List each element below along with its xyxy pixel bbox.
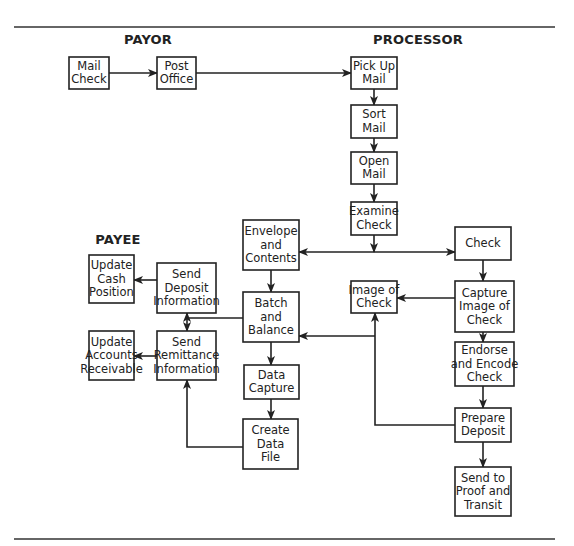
node-label: Send xyxy=(172,335,201,349)
node-batch-and-balance: BatchandBalance xyxy=(243,292,299,342)
nodes-layer: MailCheckPostOfficePick UpMailSortMailOp… xyxy=(69,57,518,516)
node-label: Mail xyxy=(362,121,385,135)
node-label: Update xyxy=(91,258,133,272)
arrow-prepare-deposit-to-image-of-check xyxy=(375,313,455,425)
node-label: Check xyxy=(467,370,503,384)
node-pick-up-mail: Pick UpMail xyxy=(351,57,397,89)
flowchart-canvas: MailCheckPostOfficePick UpMailSortMailOp… xyxy=(0,0,574,546)
section-title-payee: PAYEE xyxy=(95,232,140,247)
node-label: Capture xyxy=(462,286,508,300)
node-label: Mail xyxy=(362,72,385,86)
node-label: Send to xyxy=(461,471,505,485)
node-label: Capture xyxy=(249,381,295,395)
node-label: and Encode xyxy=(451,357,519,371)
node-label: Endorse xyxy=(461,343,508,357)
node-label: Prepare xyxy=(461,411,505,425)
section-titles: PAYORPROCESSORPAYEE xyxy=(95,32,463,247)
node-mail-check: MailCheck xyxy=(69,57,109,89)
node-envelope-and-contents: EnvelopeandContents xyxy=(243,220,299,270)
node-label: Office xyxy=(160,72,194,86)
node-label: Data xyxy=(257,437,284,451)
node-label: Remittance xyxy=(154,348,220,362)
node-post-office: PostOffice xyxy=(157,57,196,89)
node-label: Post xyxy=(164,59,189,73)
node-label: Proof and xyxy=(456,484,511,498)
node-label: Check xyxy=(356,218,392,232)
node-update-cash-position: UpdateCashPosition xyxy=(89,255,134,303)
node-check: Check xyxy=(455,227,511,260)
node-label: and xyxy=(260,238,282,252)
arrow-create-data-file-to-send-remittance-information xyxy=(187,380,243,447)
node-label: Contents xyxy=(245,251,297,265)
node-label: Position xyxy=(89,285,134,299)
node-label: Pick Up xyxy=(353,59,395,73)
node-send-deposit-information: SendDepositInformation xyxy=(153,263,220,313)
node-image-of-check: Image ofCheck xyxy=(349,281,401,313)
node-label: Deposit xyxy=(461,424,505,438)
node-label: Envelope xyxy=(244,224,297,238)
node-label: Examine xyxy=(349,204,399,218)
node-label: Batch xyxy=(254,296,287,310)
node-label: Mail xyxy=(77,59,100,73)
node-label: Update xyxy=(91,335,133,349)
node-label: and xyxy=(260,310,282,324)
node-label: Check xyxy=(71,72,107,86)
node-label: Data xyxy=(258,368,285,382)
node-send-to-proof-and-transit: Send toProof andTransit xyxy=(455,467,511,516)
node-label: Check xyxy=(467,313,503,327)
node-label: Balance xyxy=(248,323,294,337)
node-label: Check xyxy=(465,236,501,250)
node-label: Deposit xyxy=(165,281,209,295)
node-label: File xyxy=(261,450,280,464)
node-label: Receivable xyxy=(80,362,143,376)
node-label: Sort xyxy=(362,107,386,121)
node-label: Check xyxy=(356,296,392,310)
node-create-data-file: CreateDataFile xyxy=(243,419,298,469)
section-title-payor: PAYOR xyxy=(124,32,172,47)
node-label: Cash xyxy=(97,272,125,286)
node-label: Create xyxy=(251,423,289,437)
section-title-processor: PROCESSOR xyxy=(373,32,463,47)
node-open-mail: OpenMail xyxy=(351,152,397,184)
node-update-accounts-receivable: UpdateAccountsReceivable xyxy=(80,331,143,380)
node-label: Information xyxy=(153,294,220,308)
check-processing-flowchart: MailCheckPostOfficePick UpMailSortMailOp… xyxy=(0,0,574,546)
node-label: Image of xyxy=(459,299,511,313)
node-label: Open xyxy=(359,154,390,168)
node-prepare-deposit: PrepareDeposit xyxy=(455,408,511,442)
node-capture-image-of-check: CaptureImage ofCheck xyxy=(455,281,514,332)
node-endorse-and-encode-check: Endorseand EncodeCheck xyxy=(451,342,519,386)
node-examine-check: ExamineCheck xyxy=(349,202,399,235)
node-label: Accounts xyxy=(85,348,137,362)
node-label: Transit xyxy=(463,498,503,512)
node-label: Information xyxy=(153,362,220,376)
node-label: Image of xyxy=(349,283,401,297)
node-sort-mail: SortMail xyxy=(351,105,397,138)
node-label: Mail xyxy=(362,167,385,181)
node-send-remittance-information: SendRemittanceInformation xyxy=(153,331,220,380)
node-label: Send xyxy=(172,267,201,281)
node-data-capture: DataCapture xyxy=(244,365,299,399)
